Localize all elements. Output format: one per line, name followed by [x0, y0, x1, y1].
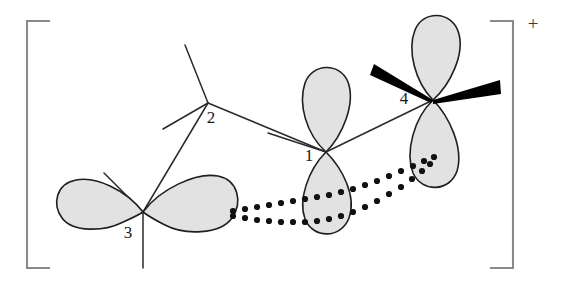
right-bracket — [491, 21, 513, 268]
charge-label: + — [528, 13, 539, 34]
atom-label-3: 3 — [124, 223, 133, 242]
orbital-3-left-lobe — [57, 179, 143, 229]
atom-label-4: 4 — [400, 89, 409, 108]
atom-label-1: 1 — [305, 146, 314, 165]
left-bracket — [27, 21, 49, 268]
orbital-4-lower-lobe — [410, 100, 459, 187]
atom-label-2: 2 — [207, 108, 216, 127]
orbital-1-upper-lobe — [303, 67, 351, 152]
orbital-4-upper-lobe — [412, 15, 460, 100]
orbital-3-right-lobe — [143, 175, 238, 231]
bond-2-to-lower-left — [163, 103, 208, 129]
bond-group-atom-1 — [268, 100, 433, 152]
orbital-diagram-figure: + — [0, 0, 564, 287]
diagram-canvas: + — [0, 0, 564, 287]
bond-2-to-upper — [185, 45, 208, 103]
